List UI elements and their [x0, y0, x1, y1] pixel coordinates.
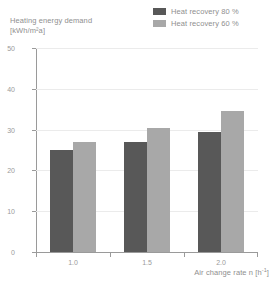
y-axis-title-line2: [kWh/m²a]: [10, 26, 92, 36]
x-tick-label: 1.5: [132, 259, 162, 267]
plot-area: 01020304050 1.01.52.0: [36, 48, 258, 253]
x-axis-title-text: Air change rate n [h: [194, 268, 261, 277]
legend-swatch-heat-recovery-60: [153, 20, 166, 27]
y-tick-mark: [32, 130, 36, 131]
legend-swatch-heat-recovery-80: [153, 8, 166, 15]
y-tick-mark: [32, 48, 36, 49]
bar: [50, 150, 73, 252]
legend: Heat recovery 80 % Heat recovery 60 %: [153, 6, 269, 30]
y-tick-label: 40: [0, 86, 15, 93]
y-tick-label: 0: [0, 249, 15, 256]
x-tick-mark: [36, 253, 37, 257]
x-tick-mark: [184, 253, 185, 257]
y-tick-label: 50: [0, 45, 15, 52]
y-tick-label: 30: [0, 127, 15, 134]
bar: [124, 142, 147, 252]
x-axis-title: Air change rate n [h-1]: [194, 268, 269, 277]
legend-item: Heat recovery 60 %: [153, 18, 269, 29]
gridline: [36, 89, 258, 90]
y-tick-label: 10: [0, 208, 15, 215]
bar: [198, 132, 221, 252]
bar: [221, 111, 244, 252]
x-axis-title-tail: ]: [267, 268, 269, 277]
x-tick-label: 1.0: [58, 259, 88, 267]
y-axis-line: [36, 48, 37, 253]
y-tick-mark: [32, 89, 36, 90]
gridline: [36, 48, 258, 49]
bar: [73, 142, 96, 252]
y-axis-title: Heating energy demand [kWh/m²a]: [10, 6, 92, 46]
x-tick-mark: [110, 253, 111, 257]
x-tick-label: 2.0: [206, 259, 236, 267]
y-tick-label: 20: [0, 167, 15, 174]
x-axis-line: [36, 252, 258, 253]
y-tick-mark: [32, 170, 36, 171]
y-axis-title-line1: Heating energy demand: [10, 16, 92, 25]
legend-item: Heat recovery 80 %: [153, 6, 269, 17]
y-tick-mark: [32, 211, 36, 212]
bar-chart: Heating energy demand [kWh/m²a] Heat rec…: [0, 0, 275, 284]
x-tick-mark: [257, 253, 258, 257]
bar: [147, 128, 170, 252]
legend-label-heat-recovery-60: Heat recovery 60 %: [171, 19, 239, 28]
legend-label-heat-recovery-80: Heat recovery 80 %: [171, 7, 239, 16]
